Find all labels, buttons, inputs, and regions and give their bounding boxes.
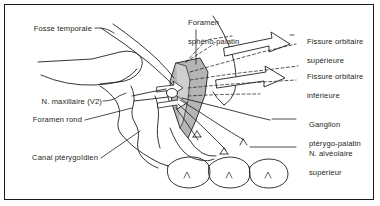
- label-foramen-spheno-palatin: Foramen sphéno-palatin: [179, 9, 239, 56]
- label-fissure-orbitaire-inferieure-line1: Fissure orbitaire: [307, 72, 363, 81]
- molar-teeth: [167, 157, 288, 188]
- label-fissure-orbitaire-inferieure-line2: inférieure: [307, 91, 340, 100]
- maxillary-nerve-trunk: [132, 89, 178, 102]
- label-foramen-spheno-palatin-line1: Foramen: [188, 18, 219, 27]
- label-n-maxillaire: N. maxillaire (V2): [10, 97, 102, 106]
- label-fissure-orbitaire-superieure-line1: Fissure orbitaire: [307, 37, 363, 46]
- label-n-alveolaire-superieur-line1: N. alvéolaire: [309, 149, 353, 158]
- zygomatic-arch: [38, 51, 142, 85]
- label-ganglion-pterygo-palatin-line1: Ganglion: [309, 120, 340, 129]
- label-n-alveolaire-superieur-line2: supérieur: [309, 168, 342, 177]
- label-canal-pterygoidien: Canal ptérygoïdien: [10, 153, 98, 162]
- label-fissure-orbitaire-inferieure: Fissure orbitaire inférieure: [298, 63, 363, 110]
- label-n-alveolaire-superieur: N. alvéolaire supérieur: [300, 140, 353, 187]
- anatomical-figure: Fosse temporale N. maxillaire (V2) Foram…: [0, 0, 380, 206]
- label-foramen-spheno-palatin-line2: sphéno-palatin: [188, 37, 240, 46]
- label-fosse-temporale: Fosse temporale: [16, 24, 92, 33]
- label-foramen-rond: Foramen rond: [14, 115, 82, 124]
